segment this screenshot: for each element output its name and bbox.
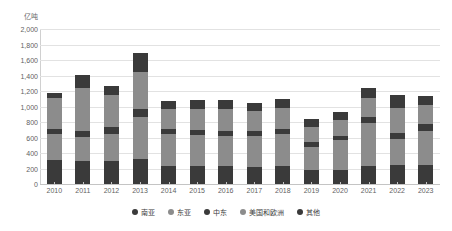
bar-segment[interactable] — [247, 103, 262, 111]
bar-group[interactable] — [161, 29, 176, 184]
bar-segment[interactable] — [75, 88, 90, 131]
bar-segment[interactable] — [104, 127, 119, 134]
bar-segment[interactable] — [275, 99, 290, 108]
bar-group[interactable] — [304, 29, 319, 184]
x-axis-tick-mark — [369, 182, 370, 185]
bar-segment[interactable] — [75, 161, 90, 184]
bar-segment[interactable] — [133, 53, 148, 71]
legend-item[interactable]: 南亚 — [132, 207, 155, 217]
bar-segment[interactable] — [161, 101, 176, 109]
bar-segment[interactable] — [190, 135, 205, 166]
bar-segment[interactable] — [190, 100, 205, 109]
bar-segment[interactable] — [304, 147, 319, 170]
bar-group[interactable] — [133, 29, 148, 184]
bar-group[interactable] — [47, 29, 62, 184]
legend-color-dot-icon — [168, 209, 174, 215]
bar-segment[interactable] — [47, 98, 62, 129]
legend-item[interactable]: 其他 — [297, 207, 320, 217]
x-axis-tick-label: 2019 — [304, 187, 320, 194]
bar-segment[interactable] — [390, 95, 405, 107]
legend-label: 中东 — [213, 207, 227, 217]
bar-group[interactable] — [104, 29, 119, 184]
bar-segment[interactable] — [47, 129, 62, 134]
bar-segment[interactable] — [104, 161, 119, 184]
legend-label: 其他 — [306, 207, 320, 217]
bar-group[interactable] — [333, 29, 348, 184]
bar-segment[interactable] — [133, 117, 148, 159]
bar-segment[interactable] — [133, 72, 148, 109]
bar-group[interactable] — [361, 29, 376, 184]
bar-segment[interactable] — [161, 129, 176, 134]
bar-segment[interactable] — [247, 111, 262, 131]
bar-segment[interactable] — [47, 93, 62, 98]
bar-segment[interactable] — [161, 134, 176, 166]
x-axis-tick-label: 2012 — [104, 187, 120, 194]
x-axis-tick-mark — [397, 182, 398, 185]
bar-segment[interactable] — [333, 120, 348, 136]
bar-group[interactable] — [75, 29, 90, 184]
bar-segment[interactable] — [304, 119, 319, 128]
x-axis-tick-label: 2014 — [161, 187, 177, 194]
bar-segment[interactable] — [218, 100, 233, 109]
bar-segment[interactable] — [275, 134, 290, 166]
bar-group[interactable] — [218, 29, 233, 184]
x-axis-tick-mark — [83, 182, 84, 185]
y-axis-tick-label: 1,200 — [4, 88, 38, 95]
bar-segment[interactable] — [275, 129, 290, 134]
y-axis-tick-label: 1,000 — [4, 103, 38, 110]
bar-segment[interactable] — [418, 131, 433, 165]
legend-color-dot-icon — [132, 209, 138, 215]
bar-segment[interactable] — [104, 95, 119, 127]
bar-segment[interactable] — [218, 131, 233, 136]
x-axis-tick-label: 2022 — [389, 187, 405, 194]
bar-segment[interactable] — [361, 123, 376, 166]
bar-segment[interactable] — [104, 86, 119, 95]
bar-segment[interactable] — [47, 134, 62, 160]
legend-label: 南亚 — [141, 207, 155, 217]
bar-segment[interactable] — [75, 75, 90, 88]
bar-segment[interactable] — [333, 136, 348, 140]
bar-group[interactable] — [190, 29, 205, 184]
bar-segment[interactable] — [247, 131, 262, 136]
bar-segment[interactable] — [190, 130, 205, 135]
bar-segment[interactable] — [304, 127, 319, 142]
legend-item[interactable]: 中东 — [204, 207, 227, 217]
bar-segment[interactable] — [418, 105, 433, 125]
x-axis-tick-label: 2016 — [218, 187, 234, 194]
x-axis-tick-label: 2015 — [189, 187, 205, 194]
x-axis-tick-label: 2010 — [46, 187, 62, 194]
bar-segment[interactable] — [418, 96, 433, 105]
bar-segment[interactable] — [361, 117, 376, 122]
x-axis-tick-mark — [197, 182, 198, 185]
bar-segment[interactable] — [133, 159, 148, 184]
bar-segment[interactable] — [275, 108, 290, 129]
bar-segment[interactable] — [390, 133, 405, 139]
legend-label: 美国和欧洲 — [249, 207, 284, 217]
bar-group[interactable] — [275, 29, 290, 184]
legend-item[interactable]: 美国和欧洲 — [240, 207, 284, 217]
bar-segment[interactable] — [75, 131, 90, 136]
legend-item[interactable]: 东亚 — [168, 207, 191, 217]
bar-segment[interactable] — [161, 109, 176, 129]
bar-segment[interactable] — [190, 109, 205, 130]
bar-segment[interactable] — [47, 160, 62, 184]
bar-segment[interactable] — [333, 140, 348, 170]
bar-segment[interactable] — [104, 134, 119, 161]
bar-segment[interactable] — [390, 139, 405, 165]
bar-segment[interactable] — [361, 88, 376, 98]
bar-segment[interactable] — [418, 124, 433, 130]
bar-segment[interactable] — [333, 112, 348, 120]
bar-segment[interactable] — [218, 136, 233, 166]
bar-segment[interactable] — [75, 137, 90, 161]
bar-group[interactable] — [247, 29, 262, 184]
bar-segment[interactable] — [361, 98, 376, 117]
bar-segment[interactable] — [247, 136, 262, 167]
bar-group[interactable] — [418, 29, 433, 184]
bar-group[interactable] — [390, 29, 405, 184]
bar-segment[interactable] — [304, 142, 319, 147]
bar-segment[interactable] — [390, 108, 405, 134]
bar-segment[interactable] — [218, 109, 233, 131]
bar-segment[interactable] — [133, 109, 148, 118]
x-axis-tick-mark — [54, 182, 55, 185]
stacked-bar-chart: 亿吨 2,0001,8001,6001,4001,2001,0008006004… — [0, 0, 452, 231]
